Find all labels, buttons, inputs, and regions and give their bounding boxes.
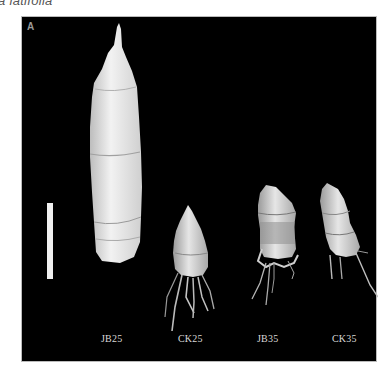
specimen-label-ck25: CK25 [178,333,203,344]
specimen-jb25 [90,23,142,263]
figure-caption-fragment: a latifolia [0,0,53,8]
photo-panel: A [21,16,377,362]
specimen-ck35 [320,183,378,297]
specimen-label-jb35: JB35 [257,333,278,344]
specimen-jb35 [252,185,298,305]
specimen-label-jb25: JB25 [101,333,122,344]
specimen-ck25 [165,205,214,331]
scale-bar [47,203,53,279]
specimen-photographs [22,17,378,363]
specimen-label-ck35: CK35 [332,333,357,344]
